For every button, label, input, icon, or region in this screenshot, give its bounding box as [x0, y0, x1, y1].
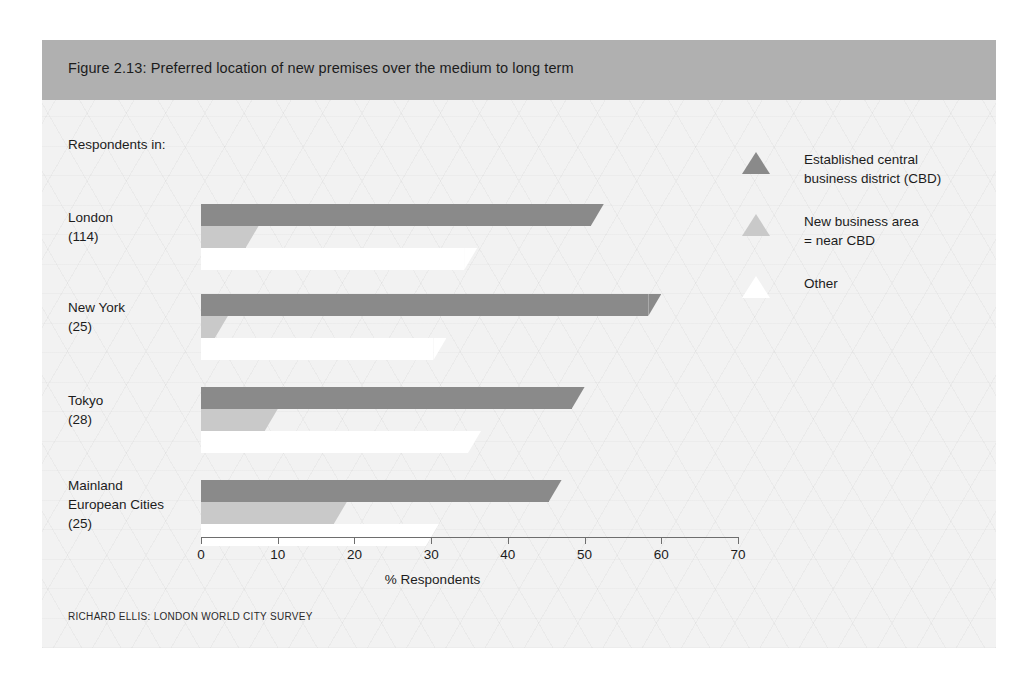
bar-body — [201, 387, 572, 409]
bar-body — [201, 431, 468, 453]
chart-legend: Established central business district (C… — [742, 150, 992, 317]
bar-new-york-series-3 — [201, 338, 446, 360]
legend-label: New business area = near CBD — [804, 212, 992, 250]
bar-body — [201, 409, 265, 431]
bar-cap — [591, 204, 604, 226]
bar-cap — [549, 480, 562, 502]
bar-cap — [215, 316, 228, 338]
x-axis-tick-label: 60 — [654, 547, 669, 562]
x-axis-tick-label: 70 — [730, 547, 745, 562]
bar-new-york-series-2 — [201, 316, 228, 338]
x-axis-tick-label: 0 — [197, 547, 205, 562]
bar-london-series-3 — [201, 248, 477, 270]
x-axis-tick — [508, 537, 509, 544]
bar-cap — [648, 294, 661, 316]
bar-body — [201, 294, 648, 316]
bar-cap — [468, 431, 481, 453]
x-axis-tick-label: 40 — [500, 547, 515, 562]
bar-mainland-european-cities-series-3 — [201, 524, 439, 546]
category-label-tokyo: Tokyo(28) — [68, 391, 103, 429]
bar-cap — [426, 524, 439, 546]
triangle-icon — [742, 152, 770, 174]
category-label-london: London(114) — [68, 208, 113, 246]
bar-tokyo-series-1 — [201, 387, 585, 409]
legend-item-3: Other — [742, 274, 992, 293]
x-axis-tick-label: 30 — [424, 547, 439, 562]
bar-mainland-european-cities-series-2 — [201, 502, 347, 524]
x-axis-tick — [201, 537, 202, 544]
bar-body — [201, 480, 549, 502]
figure-panel: Figure 2.13: Preferred location of new p… — [42, 40, 996, 648]
legend-label: Other — [804, 274, 992, 293]
bar-london-series-2 — [201, 226, 259, 248]
bar-cap — [265, 409, 278, 431]
legend-label: Established central business district (C… — [804, 150, 992, 188]
bar-body — [201, 502, 334, 524]
bar-body — [201, 316, 215, 338]
category-label-mainland-european-cities: MainlandEuropean Cities(25) — [68, 476, 164, 533]
x-axis-tick — [661, 537, 662, 544]
figure-title-band: Figure 2.13: Preferred location of new p… — [42, 40, 996, 100]
bar-tokyo-series-3 — [201, 431, 481, 453]
legend-item-1: Established central business district (C… — [742, 150, 992, 188]
bar-body — [201, 524, 426, 546]
source-note: RICHARD ELLIS: LONDON WORLD CITY SURVEY — [68, 611, 313, 622]
figure-title: Figure 2.13: Preferred location of new p… — [68, 60, 574, 76]
bar-body — [201, 338, 433, 360]
bar-cap — [572, 387, 585, 409]
x-axis-tick — [354, 537, 355, 544]
bar-body — [201, 226, 246, 248]
x-axis-tick-label: 50 — [577, 547, 592, 562]
bar-tokyo-series-2 — [201, 409, 278, 431]
bar-body — [201, 204, 591, 226]
x-axis-tick — [585, 537, 586, 544]
bar-new-york-series-1 — [201, 294, 661, 316]
x-axis-line — [201, 537, 738, 538]
triangle-icon — [742, 276, 770, 298]
x-axis-tick — [738, 537, 739, 544]
x-axis-tick — [278, 537, 279, 544]
bar-body — [201, 248, 464, 270]
category-label-new-york: New York(25) — [68, 298, 125, 336]
bar-cap — [433, 338, 446, 360]
bar-cap — [334, 502, 347, 524]
bar-mainland-european-cities-series-1 — [201, 480, 562, 502]
bar-cap — [246, 226, 259, 248]
x-axis-tick — [431, 537, 432, 544]
x-axis-tick-label: 10 — [270, 547, 285, 562]
bar-cap — [464, 248, 477, 270]
triangle-icon — [742, 214, 770, 236]
legend-item-2: New business area = near CBD — [742, 212, 992, 250]
x-axis-tick-label: 20 — [347, 547, 362, 562]
x-axis-title: % Respondents — [385, 572, 480, 587]
figure-screenshot: Figure 2.13: Preferred location of new p… — [0, 0, 1036, 691]
bar-london-series-1 — [201, 204, 604, 226]
